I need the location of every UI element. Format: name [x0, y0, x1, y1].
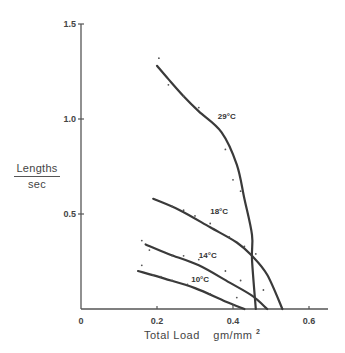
- data-point: [263, 289, 265, 291]
- curve-label: 29°C: [218, 112, 236, 121]
- x-tick-label: 0: [78, 316, 83, 326]
- data-point: [240, 190, 242, 192]
- data-point: [244, 245, 246, 247]
- data-point: [232, 179, 234, 181]
- chart-plot: 0.51.01.500.20.40.6 29°C18°C14°C10°C Tot…: [0, 0, 345, 353]
- data-point: [187, 283, 189, 285]
- y-tick-label: 0.5: [63, 209, 76, 219]
- data-point: [183, 209, 185, 211]
- data-point: [183, 95, 185, 97]
- data-point: [209, 223, 211, 225]
- data-point: [152, 274, 154, 276]
- data-point: [141, 240, 143, 242]
- x-tick-label: 0.4: [227, 316, 240, 326]
- data-point: [183, 255, 185, 257]
- data-point: [228, 236, 230, 238]
- curves: [138, 66, 282, 309]
- x-tick-label: 0.2: [151, 316, 164, 326]
- data-point: [158, 57, 160, 59]
- data-point: [141, 264, 143, 266]
- curve-label: 18°C: [210, 207, 228, 216]
- data-point: [236, 297, 238, 299]
- y-tick-label: 1.0: [63, 114, 76, 124]
- data-point: [171, 280, 173, 282]
- data-points: [141, 57, 264, 306]
- x-tick-label: 0.6: [303, 316, 316, 326]
- data-point: [255, 253, 257, 255]
- data-point: [225, 270, 227, 272]
- data-point: [209, 293, 211, 295]
- curve-labels: 29°C18°C14°C10°C: [191, 112, 236, 284]
- data-point: [225, 149, 227, 151]
- curve-label: 14°C: [199, 251, 217, 260]
- curve-label: 10°C: [191, 275, 209, 284]
- data-point: [194, 215, 196, 217]
- data-point: [171, 206, 173, 208]
- y-tick-label: 1.5: [63, 19, 76, 29]
- data-point: [240, 280, 242, 282]
- curve-29c: [157, 66, 256, 309]
- data-point: [168, 84, 170, 86]
- data-point: [232, 304, 234, 306]
- data-point: [160, 276, 162, 278]
- x-axis-label: Total Load gm/mm 2: [144, 328, 260, 341]
- data-point: [198, 107, 200, 109]
- data-point: [149, 249, 151, 251]
- data-point: [171, 255, 173, 257]
